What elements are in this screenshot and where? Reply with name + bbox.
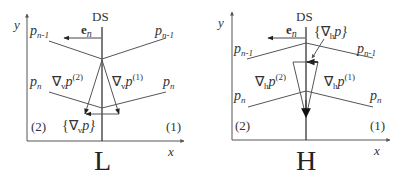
- y-axis-label: y: [216, 15, 224, 30]
- p-n-minus-1-line: [49, 38, 166, 59]
- label-p-n-1-left: pn-1: [233, 41, 253, 58]
- label-p-n-left: pn: [29, 74, 42, 91]
- panel-l: y x DS en pn-1 pn-1 pn pn ∇vp(2) ∇vp(1) …: [12, 9, 184, 176]
- panel-caption-h: H: [296, 145, 316, 176]
- interface-label: DS: [92, 9, 109, 24]
- panel-h: y x DS en pn-1 pn-1 pn pn {∇hp} ∇hp(2) ∇…: [216, 9, 390, 176]
- avg-grad-label: {∇hp}: [314, 24, 347, 41]
- label-p-n-right: pn: [369, 88, 382, 105]
- grad-label-1: ∇vp(1): [111, 72, 143, 91]
- x-axis-label: x: [373, 143, 380, 158]
- x-axis-label: x: [167, 144, 174, 159]
- p-n-line: [248, 91, 373, 107]
- y-axis-label: y: [12, 17, 20, 32]
- p-n-line: [49, 92, 166, 108]
- normal-label: en: [286, 22, 297, 39]
- region-2-label: (2): [31, 119, 46, 134]
- region-1-label: (1): [166, 119, 181, 134]
- p-n-minus-1-line: [247, 43, 373, 59]
- normal-label: en: [81, 22, 92, 39]
- label-p-n-1-left: pn-1: [29, 23, 49, 40]
- grad-vector-1: [306, 62, 318, 117]
- region-1-label: (1): [370, 118, 385, 133]
- panel-caption-l: L: [94, 145, 111, 176]
- grad-vector-2: [293, 62, 306, 117]
- interface-label: DS: [296, 9, 313, 24]
- avg-label-pointer: [312, 39, 324, 58]
- label-p-n-1-right: pn-1: [154, 23, 174, 40]
- avg-grad-label: {∇vp}: [62, 118, 95, 135]
- grad-label-2: ∇hp(2): [254, 72, 286, 91]
- label-p-n-left: pn: [233, 88, 246, 105]
- diagram-canvas: y x DS en pn-1 pn-1 pn pn ∇vp(2) ∇vp(1) …: [0, 0, 401, 177]
- region-2-label: (2): [235, 118, 250, 133]
- label-p-n-1-right: pn-1: [356, 41, 376, 58]
- grad-label-1: ∇hp(1): [323, 72, 355, 91]
- grad-label-2: ∇vp(2): [51, 72, 83, 91]
- label-p-n-right: pn: [162, 74, 175, 91]
